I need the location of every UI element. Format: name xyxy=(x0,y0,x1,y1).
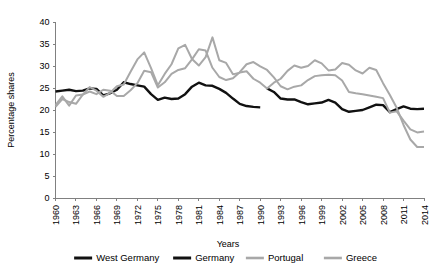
x-tick-label: 1963 xyxy=(71,205,81,225)
x-tick-label: 1984 xyxy=(215,205,225,225)
y-tick-label: 20 xyxy=(39,105,49,115)
x-tick-label: 1969 xyxy=(112,205,122,225)
x-tick-label: 1981 xyxy=(194,205,204,225)
x-tick-label: 2011 xyxy=(399,205,409,224)
x-axis-title: Years xyxy=(217,239,240,249)
y-tick-label: 40 xyxy=(39,17,49,27)
legend-label-greece: Greece xyxy=(346,252,377,263)
x-tick-label: 1993 xyxy=(276,205,286,225)
x-tick-label: 1972 xyxy=(133,205,143,225)
x-tick-label: 1990 xyxy=(256,205,266,225)
y-tick-label: 15 xyxy=(39,127,49,137)
x-tick-label: 1999 xyxy=(317,205,327,225)
legend-label-germany: Germany xyxy=(195,252,234,263)
x-tick-label: 1975 xyxy=(153,205,163,225)
plot-background xyxy=(0,0,429,268)
x-tick-label: 1987 xyxy=(235,205,245,225)
y-tick-label: 25 xyxy=(39,83,49,93)
x-tick-label: 1960 xyxy=(51,205,61,225)
x-tick-label: 2008 xyxy=(379,205,389,225)
y-tick-label: 0 xyxy=(44,193,49,203)
y-tick-label: 35 xyxy=(39,39,49,49)
legend-label-west-germany: West Germany xyxy=(96,252,159,263)
line-chart: 0510152025303540 19601963196619691972197… xyxy=(0,0,429,268)
y-tick-label: 30 xyxy=(39,61,49,71)
x-tick-label: 1996 xyxy=(297,205,307,225)
x-tick-label: 2005 xyxy=(358,205,368,225)
x-tick-label: 1978 xyxy=(174,205,184,225)
y-tick-label: 5 xyxy=(44,171,49,181)
x-tick-label: 2014 xyxy=(420,205,429,225)
legend-label-portugal: Portugal xyxy=(268,252,303,263)
y-tick-label: 10 xyxy=(39,149,49,159)
x-tick-label: 2002 xyxy=(338,205,348,225)
chart-figure: 0510152025303540 19601963196619691972197… xyxy=(0,0,429,268)
x-tick-label: 1966 xyxy=(92,205,102,225)
y-axis-title: Percentage shares xyxy=(6,72,16,148)
